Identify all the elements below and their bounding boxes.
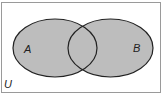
venn-diagram: A B U <box>0 0 162 97</box>
set-b-label: B <box>133 42 140 54</box>
set-a-label: A <box>23 43 31 55</box>
universal-set-label: U <box>4 78 12 90</box>
